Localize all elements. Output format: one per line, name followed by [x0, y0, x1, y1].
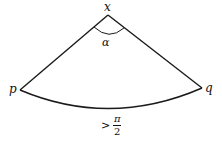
arc-length-label: > π 2	[101, 114, 121, 137]
radius-xp	[20, 15, 108, 90]
fraction-denominator: 2	[114, 127, 120, 137]
angle-arc-alpha	[94, 27, 124, 34]
label-x: x	[104, 1, 111, 13]
greater-than-sign: >	[101, 119, 110, 132]
fraction: π 2	[113, 114, 121, 137]
arc-pq	[20, 88, 202, 109]
fraction-numerator: π	[114, 114, 121, 124]
radius-xq	[108, 15, 202, 88]
label-p: p	[9, 83, 17, 95]
label-alpha: α	[102, 37, 109, 48]
sector-diagram: x α p q > π 2	[0, 0, 222, 144]
label-q: q	[205, 82, 213, 94]
